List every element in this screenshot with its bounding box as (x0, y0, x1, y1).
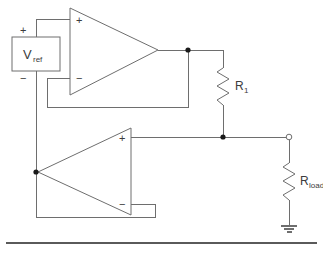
rload-label-subscript: load (309, 181, 323, 190)
output-terminal-open-circle (286, 134, 292, 140)
resistor-r1-group: R 1 (217, 68, 249, 105)
rload-label: R (300, 174, 309, 188)
opamp2-triangle (38, 128, 131, 215)
opamp2-plus-label: + (119, 132, 125, 144)
wire-opamp2-feedback (36, 172, 155, 217)
opamp2-minus-label: − (119, 198, 125, 210)
ground-symbol (281, 226, 297, 232)
opamp1-group: + − (70, 8, 158, 95)
circuit-schematic-figure: + − + − V ref + − (0, 0, 323, 255)
opamp1-minus-label: − (76, 72, 82, 84)
schematic-canvas: + − + − V ref + − (0, 0, 323, 255)
r1-label: R (235, 79, 244, 93)
r1-zigzag (217, 68, 229, 105)
vref-label-subscript: ref (33, 55, 43, 64)
node-dot-opamp1-output (185, 47, 190, 52)
vref-label: V (23, 47, 32, 62)
resistor-rload-group: R load (283, 163, 323, 200)
vref-minus-label: − (20, 72, 26, 84)
r1-label-subscript: 1 (244, 86, 249, 95)
opamp1-plus-label: + (76, 14, 82, 26)
opamp2-group: + − (38, 128, 131, 215)
node-dot-opamp2-output (33, 169, 38, 174)
node-dot-r1-bottom (220, 134, 225, 139)
vref-body (12, 37, 60, 71)
voltage-source-vref: V ref + − (12, 19, 60, 172)
opamp1-triangle (70, 8, 158, 95)
wiring-group (36, 19, 289, 226)
vref-plus-label: + (20, 24, 26, 36)
rload-zigzag (283, 163, 295, 200)
wire-opamp1-feedback (47, 50, 188, 107)
